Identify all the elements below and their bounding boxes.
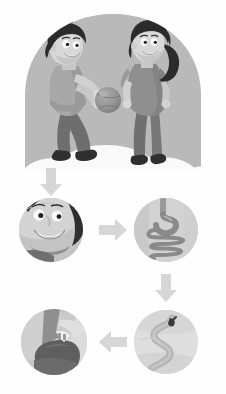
scene-children-playing [0,0,226,180]
arrow-down-icon [40,168,62,196]
intestine-icon [134,310,198,374]
mouth-chewing-icon [19,193,85,262]
toilet-icon [21,309,87,375]
flow-chart [0,160,226,394]
page-root [0,0,226,394]
node-mouth[interactable] [19,193,85,262]
arrow-right-icon [99,219,127,241]
node-intestine[interactable] [134,310,198,374]
ball [95,87,121,113]
node-toilet[interactable] [21,309,87,375]
arrow-down-icon [155,274,177,302]
flow-illustration [0,160,226,394]
esophagus-stomach-icon [134,196,198,262]
scene-illustration [0,0,226,180]
arrow-left-icon [99,331,127,353]
node-esophagus-stomach[interactable] [134,196,198,262]
